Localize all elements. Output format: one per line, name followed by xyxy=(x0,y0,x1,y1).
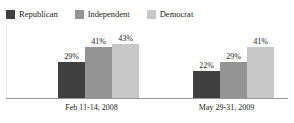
legend-item-independent: Independent xyxy=(75,8,130,20)
legend-item-democrat: Democrat xyxy=(147,8,194,20)
bar-independent xyxy=(220,62,247,99)
bar-slot: 41% xyxy=(247,24,274,99)
x-axis-category-label: Feb 11-14, 2008 xyxy=(51,103,132,112)
bar-group-feb-2008: 29% 41% 43% xyxy=(58,24,139,99)
chart-legend: Republican Independent Democrat xyxy=(6,8,193,20)
bar-slot: 43% xyxy=(112,24,139,99)
legend-swatch-independent xyxy=(75,10,84,19)
legend-label-republican: Republican xyxy=(19,10,58,19)
bar-republican xyxy=(193,71,220,99)
legend-spacer xyxy=(58,14,75,15)
bar-democrat xyxy=(112,44,139,99)
bar-independent xyxy=(85,47,112,99)
plot-area: 29% 41% 43% 22% 29% 41% xyxy=(6,24,288,99)
legend-item-republican: Republican xyxy=(6,8,58,20)
bar-value-label: 41% xyxy=(91,38,106,46)
bar-slot: 29% xyxy=(220,24,247,99)
x-axis-category-label: May 29-31, 2009 xyxy=(186,103,267,112)
bar-value-label: 22% xyxy=(199,62,214,70)
bar-slot: 29% xyxy=(58,24,85,99)
bar-value-label: 41% xyxy=(253,38,268,46)
bar-republican xyxy=(58,62,85,99)
bar-slot: 22% xyxy=(193,24,220,99)
bar-slot: 41% xyxy=(85,24,112,99)
legend-swatch-republican xyxy=(6,10,15,19)
legend-swatch-democrat xyxy=(147,10,156,19)
bar-value-label: 43% xyxy=(118,35,133,43)
bar-chart: Republican Independent Democrat 29% 41% … xyxy=(0,0,294,123)
x-axis-baseline xyxy=(6,98,288,99)
bar-value-label: 29% xyxy=(226,53,241,61)
legend-label-independent: Independent xyxy=(88,10,130,19)
bar-group-may-2009: 22% 29% 41% xyxy=(193,24,274,99)
bar-value-label: 29% xyxy=(64,53,79,61)
legend-spacer xyxy=(130,14,147,15)
bar-democrat xyxy=(247,47,274,99)
legend-label-democrat: Democrat xyxy=(160,10,194,19)
